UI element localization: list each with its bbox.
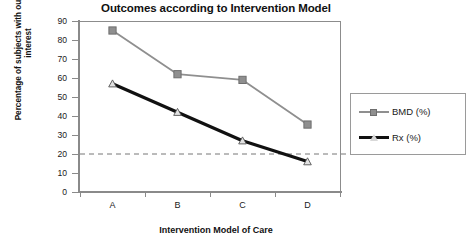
- x-tick-label: C: [228, 200, 258, 210]
- x-axis-title: Intervention Model of Care: [86, 225, 346, 235]
- x-tick: [275, 192, 276, 197]
- y-tick: [72, 135, 78, 136]
- y-tick-label: 30: [45, 131, 67, 139]
- y-tick-label: 40: [45, 112, 67, 120]
- x-tick: [80, 192, 81, 197]
- y-tick: [72, 40, 78, 41]
- x-tick-label: A: [98, 200, 128, 210]
- y-tick-label: 50: [45, 93, 67, 101]
- y-axis-title: Percentage of subjects with outcome of i…: [14, 0, 40, 128]
- legend: BMD (%) Rx (%): [350, 93, 466, 155]
- y-tick: [72, 59, 78, 60]
- y-axis-title-line2: interest: [24, 28, 33, 58]
- y-axis-line: [78, 20, 80, 193]
- y-tick: [72, 78, 78, 79]
- y-tick-label: 70: [45, 55, 67, 63]
- y-tick: [72, 97, 78, 98]
- y-tick: [72, 116, 78, 117]
- legend-item-rx[interactable]: Rx (%): [359, 132, 421, 143]
- legend-label-rx: Rx (%): [392, 132, 421, 143]
- y-tick-label: 0: [45, 188, 67, 196]
- y-axis-title-line1: Percentage of subjects with outcome of: [14, 0, 23, 120]
- chart-figure: Outcomes according to Intervention Model…: [0, 0, 473, 246]
- y-tick: [72, 21, 78, 22]
- y-tick-label: 20: [45, 150, 67, 158]
- legend-swatch-rx: [359, 133, 389, 143]
- legend-swatch-bmd: [359, 107, 389, 117]
- x-tick-label: B: [163, 200, 193, 210]
- y-tick-label: 60: [45, 74, 67, 82]
- y-tick-label: 90: [45, 17, 67, 25]
- chart-title: Outcomes according to Intervention Model: [86, 2, 346, 14]
- y-tick-label: 80: [45, 36, 67, 44]
- x-tick: [210, 192, 211, 197]
- plot-area: [79, 21, 341, 192]
- x-tick: [145, 192, 146, 197]
- x-tick-label: D: [293, 200, 323, 210]
- x-tick: [340, 192, 341, 197]
- legend-item-bmd[interactable]: BMD (%): [359, 106, 431, 117]
- y-tick: [72, 173, 78, 174]
- y-tick: [72, 192, 78, 193]
- y-tick: [72, 154, 78, 155]
- legend-label-bmd: BMD (%): [392, 106, 431, 117]
- y-tick-label: 10: [45, 169, 67, 177]
